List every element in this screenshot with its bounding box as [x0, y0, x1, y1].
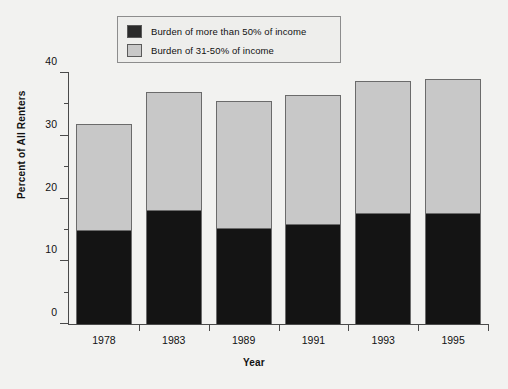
y-tick-major-0: [60, 323, 69, 324]
legend-label-1: Burden of 31-50% of income: [151, 45, 274, 56]
x-tick-label-1978: 1978: [92, 334, 115, 346]
y-tick-major-10: [60, 260, 69, 261]
bar-segment-burden-over-50-1989[interactable]: [217, 228, 271, 324]
chart-legend: Burden of more than 50% of income Burden…: [117, 16, 341, 63]
legend-swatch-dark: [127, 25, 142, 38]
y-tick-label-10: 10: [45, 243, 57, 255]
bar-stack-1995[interactable]: [425, 79, 481, 324]
bar-segment-burden-over-50-1995[interactable]: [426, 213, 480, 324]
bar-column-1995[interactable]: [425, 73, 481, 324]
bar-segment-burden-over-50-1978[interactable]: [77, 230, 131, 324]
x-tick-label-1991: 1991: [302, 334, 325, 346]
bar-stack-1983[interactable]: [146, 92, 202, 324]
y-axis-title: Percent of All Renters: [16, 90, 27, 199]
x-tick-2: [279, 324, 280, 331]
y-tick-major-30: [60, 135, 69, 136]
x-tick-label-1993: 1993: [372, 334, 395, 346]
x-tick-label-1983: 1983: [162, 334, 185, 346]
bar-segment-burden-31-50-1978[interactable]: [77, 125, 131, 231]
bar-column-1978[interactable]: [76, 73, 132, 324]
bar-column-1989[interactable]: [216, 73, 272, 324]
y-tick-label-40: 40: [45, 55, 57, 67]
plot-area: 010203040 197819831989199119931995: [68, 73, 488, 325]
bar-column-1993[interactable]: [355, 73, 411, 324]
bar-segment-burden-over-50-1991[interactable]: [286, 224, 340, 324]
bar-stack-1989[interactable]: [216, 101, 272, 324]
bar-stack-1991[interactable]: [285, 95, 341, 324]
x-tick-label-1995: 1995: [441, 334, 464, 346]
bar-segment-burden-over-50-1993[interactable]: [356, 213, 410, 324]
x-axis-title: Year: [0, 357, 508, 368]
y-tick-label-30: 30: [45, 118, 57, 130]
x-tick-label-1989: 1989: [232, 334, 255, 346]
bar-column-1983[interactable]: [146, 73, 202, 324]
bar-stack-1978[interactable]: [76, 124, 132, 324]
x-tick-1: [209, 324, 210, 331]
x-tick-end: [488, 324, 489, 331]
legend-swatch-light: [127, 44, 142, 57]
bar-segment-burden-31-50-1983[interactable]: [147, 93, 201, 210]
y-tick-major-20: [60, 198, 69, 199]
legend-entry-0: Burden of more than 50% of income: [127, 22, 340, 40]
chart-figure: Burden of more than 50% of income Burden…: [0, 0, 508, 389]
y-tick-label-20: 20: [45, 181, 57, 193]
legend-entry-1: Burden of 31-50% of income: [127, 41, 340, 59]
bar-column-1991[interactable]: [285, 73, 341, 324]
bar-segment-burden-31-50-1993[interactable]: [356, 82, 410, 213]
x-tick-3: [348, 324, 349, 331]
bar-stack-1993[interactable]: [355, 81, 411, 324]
bar-segment-burden-31-50-1991[interactable]: [286, 96, 340, 224]
x-tick-4: [418, 324, 419, 331]
bar-segment-burden-over-50-1983[interactable]: [147, 210, 201, 324]
bar-series-group: [69, 73, 488, 324]
y-tick-label-0: 0: [51, 306, 57, 318]
x-tick-0: [139, 324, 140, 331]
bar-segment-burden-31-50-1995[interactable]: [426, 80, 480, 212]
legend-label-0: Burden of more than 50% of income: [151, 26, 306, 37]
y-tick-major-40: [60, 72, 69, 73]
bar-segment-burden-31-50-1989[interactable]: [217, 102, 271, 228]
